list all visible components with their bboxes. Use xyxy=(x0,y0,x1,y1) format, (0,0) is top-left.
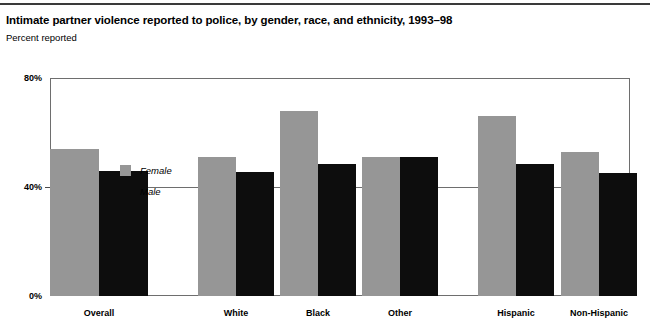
bar-overall-female xyxy=(50,149,99,296)
x-category-label-other: Other xyxy=(388,308,412,318)
legend-label-female: Female xyxy=(140,165,172,176)
legend: Female Male xyxy=(120,162,172,204)
legend-label-male: Male xyxy=(140,186,161,197)
legend-swatch-female-icon xyxy=(120,165,131,176)
y-tick-label-0: 0% xyxy=(8,291,42,301)
bar-black-female xyxy=(280,111,318,296)
bar-white-male xyxy=(236,172,274,296)
legend-item-female: Female xyxy=(120,162,172,178)
bar-hispanic-female xyxy=(478,116,516,296)
bar-non-hispanic-male xyxy=(599,173,637,296)
x-category-label-black: Black xyxy=(306,308,330,318)
bar-non-hispanic-female xyxy=(561,152,599,297)
bar-other-female xyxy=(362,157,400,296)
bar-other-male xyxy=(400,157,438,296)
legend-swatch-male-icon xyxy=(120,186,131,197)
y-tick-label-40: 40% xyxy=(8,182,42,192)
y-tick-label-80: 80% xyxy=(8,73,42,83)
legend-item-male: Male xyxy=(120,183,172,199)
bar-black-male xyxy=(318,164,356,296)
plot-area: Female Male xyxy=(50,78,630,296)
x-category-label-non-hispanic: Non-Hispanic xyxy=(570,308,628,318)
x-category-label-overall: Overall xyxy=(84,308,115,318)
bar-white-female xyxy=(198,157,236,296)
x-category-label-hispanic: Hispanic xyxy=(497,308,535,318)
x-category-label-white: White xyxy=(224,308,249,318)
bar-hispanic-male xyxy=(516,164,554,296)
chart-subtitle: Percent reported xyxy=(6,32,77,43)
chart-title: Intimate partner violence reported to po… xyxy=(6,14,452,26)
header-rule xyxy=(0,3,650,5)
